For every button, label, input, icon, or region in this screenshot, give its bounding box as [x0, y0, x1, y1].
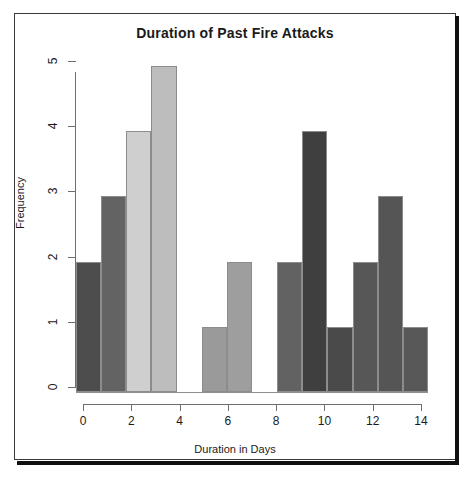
- histogram-bar: [101, 196, 126, 392]
- x-axis-tick: [228, 404, 229, 411]
- histogram-bar: [403, 327, 428, 392]
- x-axis-tick-label: 6: [213, 414, 243, 428]
- y-axis-tick-label: 4: [46, 115, 60, 137]
- y-axis-tick: [68, 126, 76, 127]
- plot-area: [76, 66, 428, 393]
- x-axis-tick-label: 0: [68, 414, 98, 428]
- x-axis-line: [83, 404, 421, 405]
- x-axis-title: Duration in Days: [14, 443, 456, 455]
- histogram-bar: [302, 131, 327, 392]
- histogram-bar: [202, 327, 227, 392]
- x-axis-tick: [276, 404, 277, 411]
- y-axis-tick: [68, 257, 76, 258]
- x-axis-baseline: [76, 392, 428, 393]
- y-axis-tick-label: 1: [46, 311, 60, 333]
- histogram-bar: [327, 327, 352, 392]
- histogram-bars: [76, 66, 428, 392]
- x-axis-tick: [373, 404, 374, 411]
- x-axis-tick-label: 4: [165, 414, 195, 428]
- chart-title: Duration of Past Fire Attacks: [14, 25, 456, 41]
- x-axis-tick-label: 8: [261, 414, 291, 428]
- histogram-bar: [76, 262, 101, 392]
- x-axis-tick: [180, 404, 181, 411]
- figure-frame-shadow-right: [455, 16, 459, 465]
- y-axis: 012345: [62, 66, 76, 393]
- y-axis-tick: [68, 61, 76, 62]
- x-axis-tick-label: 12: [358, 414, 388, 428]
- histogram-bar: [353, 262, 378, 392]
- y-axis-tick: [68, 191, 76, 192]
- y-axis-tick: [68, 387, 76, 388]
- screenshot-page: Duration of Past Fire Attacks 012345 Fre…: [0, 0, 472, 480]
- x-axis-tick: [421, 404, 422, 411]
- histogram-bar: [227, 262, 252, 392]
- x-axis-tick-label: 14: [406, 414, 436, 428]
- histogram-bar: [151, 66, 176, 392]
- y-axis-tick-label: 2: [46, 246, 60, 268]
- x-axis-tick: [83, 404, 84, 411]
- x-axis-tick: [131, 404, 132, 411]
- histogram-bar: [277, 262, 302, 392]
- figure-frame-shadow-bottom: [17, 461, 459, 465]
- x-axis-tick-label: 2: [116, 414, 146, 428]
- y-axis-tick-label: 0: [46, 376, 60, 398]
- x-axis-tick: [324, 404, 325, 411]
- x-axis-tick-label: 10: [309, 414, 339, 428]
- histogram-bar: [378, 196, 403, 392]
- y-axis-tick-label: 3: [46, 180, 60, 202]
- y-axis-title: Frequency: [14, 177, 26, 229]
- histogram-bar: [126, 131, 151, 392]
- y-axis-tick: [68, 322, 76, 323]
- x-axis: 02468101214: [76, 404, 428, 420]
- y-axis-tick-label: 5: [46, 50, 60, 72]
